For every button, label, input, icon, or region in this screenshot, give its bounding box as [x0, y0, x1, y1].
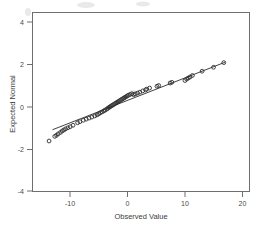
y-axis-tick-labels: 4 2 0 -2 -4	[18, 19, 24, 195]
scan-artifacts	[25, 2, 150, 97]
x-tick-label: 0	[126, 200, 130, 207]
data-point	[47, 139, 51, 143]
qq-plot-figure: 4 2 0 -2 -4 -10 0 10 20 Observed Value E…	[0, 0, 263, 227]
y-axis-title: Expected Normal	[8, 75, 17, 133]
y-tick-label: -2	[18, 146, 24, 153]
y-tick-label: 2	[20, 61, 24, 68]
normal-reference-line	[52, 62, 224, 129]
y-tick-label: 0	[20, 104, 24, 111]
x-tick-label: -10	[65, 200, 75, 207]
x-axis-title: Observed Value	[114, 212, 167, 221]
x-tick-label: 10	[181, 200, 189, 207]
qq-plot-canvas: 4 2 0 -2 -4 -10 0 10 20 Observed Value E…	[0, 0, 263, 227]
plot-frame	[33, 13, 250, 192]
y-axis-ticks	[27, 22, 32, 191]
x-tick-label: 20	[239, 200, 247, 207]
x-axis-ticks	[70, 192, 243, 197]
y-tick-label: 4	[20, 19, 24, 26]
x-axis-tick-labels: -10 0 10 20	[65, 200, 247, 207]
data-points-layer	[47, 61, 226, 143]
y-tick-label: -4	[18, 188, 24, 195]
